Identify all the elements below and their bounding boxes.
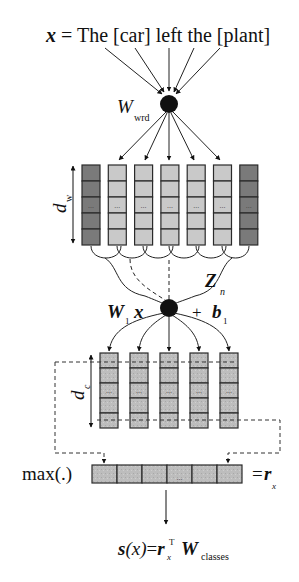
b1-label: b [212,301,222,322]
w1x-label: W [107,301,125,322]
embedding-cell [82,181,100,197]
zn-label: Z [204,270,217,291]
word-column: ... [161,165,179,245]
embedding-cell [187,181,205,197]
conv-cell [100,413,118,428]
pool-cell [142,465,167,483]
window-curves [91,246,249,304]
ellipsis: ... [246,201,252,210]
lookup-node [160,95,178,113]
rx-label: r [264,463,272,484]
w-wrd-label: W [117,96,135,117]
dw-label: d w [49,194,74,213]
ellipsis: ... [196,386,202,395]
conv-cell [190,368,208,383]
conv-node [160,299,178,317]
conv-column: ... [190,353,208,428]
conv-cell [220,398,238,413]
conv-cell [160,368,178,383]
embedding-cell [82,213,100,229]
embedding-cell [240,229,258,245]
embedding-cell [135,165,153,181]
ellipsis: ... [88,201,94,210]
max-pool-label: max(.) [22,463,72,485]
ellipsis: ... [106,386,112,395]
word-column: ... [135,165,153,245]
input-line [176,48,220,94]
ellipsis: ... [166,386,172,395]
input-var: x [45,24,56,46]
conv-cell [130,353,148,368]
input-line [105,48,162,94]
embedding-cell [240,213,258,229]
ellipsis: ... [136,386,142,395]
ellipsis: ... [114,201,120,210]
conv-cell [160,353,178,368]
conv-cell [220,368,238,383]
conv-cell [130,368,148,383]
cnn-architecture-diagram: x = The [car] left the [plant] W wrd d w… [0,0,299,582]
pool-cell [92,465,117,483]
word-input-lines [105,48,220,94]
ellipsis: ... [141,201,147,210]
score-s: s [117,538,125,559]
word-embedding-columns: ..................... [82,165,258,245]
embedding-cell [135,229,153,245]
embedding-cell [82,229,100,245]
embedding-cell [214,165,232,181]
conv-column: ... [100,353,118,428]
ellipsis: ... [220,201,226,210]
conv-column: ... [130,353,148,428]
embedding-cell [108,213,126,229]
conv-cell [100,398,118,413]
ellipsis: ... [167,201,173,210]
conv-cell [100,368,118,383]
score-arg: (x) [125,538,146,560]
score-formula: s(x)=r T x W classes [117,537,229,562]
embedding-cell [135,213,153,229]
embedding-cell [214,229,232,245]
embedding-cell [214,181,232,197]
score-transpose: T [169,537,175,547]
embedding-cell [161,213,179,229]
conv-cell [190,398,208,413]
embedding-cell [161,181,179,197]
score-r: r [157,538,165,559]
w-wrd-subscript: wrd [134,112,150,123]
score-w-subscript: classes [201,551,229,562]
embedding-cell [240,165,258,181]
conv-cell [220,413,238,428]
input-text: The [car] left the [plant] [77,24,270,47]
conv-column: ... [220,353,238,428]
input-sentence: x = The [car] left the [plant] [45,24,270,47]
conv-cell [100,353,118,368]
embedding-cell [82,165,100,181]
b1-subscript: 1 [223,316,228,326]
svg-text:d: d [67,390,88,400]
word-column: ... [187,165,205,245]
embedding-cell [214,213,232,229]
zn-subscript: n [220,286,225,297]
embedding-cell [108,229,126,245]
embedding-cell [187,213,205,229]
conv-cell [130,398,148,413]
max-pool-vector: ... [92,465,242,483]
conv-cell [220,353,238,368]
input-line [135,48,164,92]
conv-cell [160,398,178,413]
word-column: ... [214,165,232,245]
embedding-cell [108,181,126,197]
pool-cell [192,465,217,483]
pool-cell [117,465,142,483]
rx-subscript: x [271,481,276,491]
word-column: ... [108,165,126,245]
svg-text:s(x)=r: s(x)=r [117,538,165,560]
embedding-cell [240,181,258,197]
conv-cell [190,353,208,368]
svg-text:d: d [49,203,70,213]
embedding-cell [161,229,179,245]
pool-cell [217,465,242,483]
input-equals: = [56,24,77,46]
embedding-cell [187,165,205,181]
score-w: W [181,538,199,559]
